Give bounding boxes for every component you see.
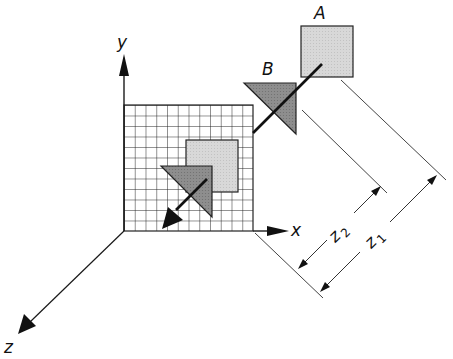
- object-b-label: B: [262, 59, 274, 79]
- z-axis: z: [3, 231, 124, 357]
- coordinate-diagram: y x z A B: [0, 0, 453, 359]
- extension-line-b: [302, 110, 387, 193]
- x-axis-label: x: [290, 220, 302, 240]
- x-axis: x: [253, 220, 302, 240]
- square-a: [301, 26, 353, 77]
- object-a: A: [301, 3, 353, 77]
- extension-line-plane: [255, 233, 323, 298]
- dimension-z2: z 2: [298, 186, 381, 269]
- x-axis-arrowhead-icon: [267, 226, 289, 236]
- object-a-label: A: [313, 3, 326, 23]
- z-axis-arrowhead-icon: [18, 314, 36, 334]
- extension-line-a: [341, 80, 446, 180]
- y-axis-label: y: [116, 32, 128, 52]
- y-axis-arrowhead-icon: [119, 54, 129, 76]
- z-axis-label: z: [3, 337, 14, 357]
